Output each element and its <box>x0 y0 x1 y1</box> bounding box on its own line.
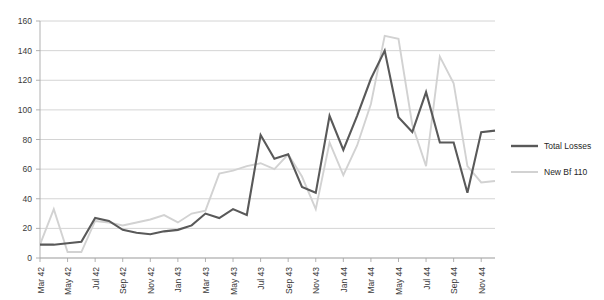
y-axis-tick-label: 60 <box>23 164 33 174</box>
y-axis-tick-label: 140 <box>18 46 32 56</box>
x-axis-tick-label: Jul 42 <box>91 267 101 290</box>
y-axis-tick-label: 80 <box>23 135 33 145</box>
legend-label: Total Losses <box>544 141 591 151</box>
y-axis-tick-label: 20 <box>23 223 33 233</box>
x-axis-tick-label: May 42 <box>63 267 73 295</box>
x-axis-ticks: Mar 42May 42Jul 42Sep 42Nov 42Jan 43Mar … <box>36 258 487 295</box>
x-axis-tick-label: Mar 43 <box>201 267 211 294</box>
x-axis-tick-label: Nov 44 <box>477 267 487 294</box>
x-axis-tick-label: Sep 42 <box>118 267 128 294</box>
x-axis-tick-label: May 44 <box>394 267 404 295</box>
chart-legend: Total LossesNew Bf 110 <box>511 141 591 177</box>
y-axis-tick-label: 120 <box>18 75 32 85</box>
y-axis-tick-label: 40 <box>23 194 33 204</box>
x-axis-tick-label: Mar 42 <box>36 267 46 294</box>
x-axis-tick-label: Sep 44 <box>449 267 459 294</box>
y-axis-tick-label: 0 <box>27 253 32 263</box>
x-axis-tick-label: May 43 <box>229 267 239 295</box>
chart-container: 020406080100120140160Mar 42May 42Jul 42S… <box>0 0 604 300</box>
line-chart: 020406080100120140160Mar 42May 42Jul 42S… <box>0 0 604 300</box>
legend-label: New Bf 110 <box>544 167 588 177</box>
x-axis-tick-label: Nov 43 <box>311 267 321 294</box>
x-axis-tick-label: Jul 43 <box>256 267 266 290</box>
x-axis-tick-label: Nov 42 <box>146 267 156 294</box>
x-axis-tick-label: Jul 44 <box>422 267 432 290</box>
series-line-total-losses <box>40 51 495 245</box>
x-axis-tick-label: Sep 43 <box>284 267 294 294</box>
y-axis-tick-label: 160 <box>18 16 32 26</box>
x-axis-tick-label: Jan 43 <box>173 267 183 293</box>
series-line-new-bf-110 <box>40 36 495 252</box>
x-axis-tick-label: Mar 44 <box>366 267 376 294</box>
y-axis-tick-label: 100 <box>18 105 32 115</box>
x-axis-tick-label: Jan 44 <box>339 267 349 293</box>
